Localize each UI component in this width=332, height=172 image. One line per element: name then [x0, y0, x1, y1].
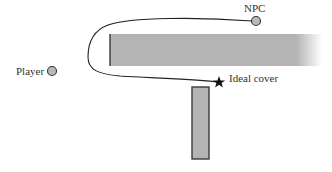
npc-icon [252, 17, 261, 26]
star-icon [213, 76, 225, 88]
horizontal-wall [110, 34, 322, 66]
vertical-wall [192, 87, 209, 159]
player-label: Player [16, 65, 44, 77]
cover-diagram: NPC Player Ideal cover [0, 0, 332, 172]
player-icon [48, 67, 57, 76]
ideal-cover-label: Ideal cover [229, 72, 278, 84]
npc-label: NPC [244, 2, 265, 14]
